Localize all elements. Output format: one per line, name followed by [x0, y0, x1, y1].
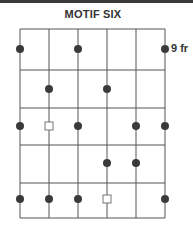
- finger-dot-icon: [161, 195, 169, 203]
- finger-dot-icon: [16, 122, 24, 130]
- finger-dot-icon: [74, 122, 82, 130]
- finger-dot-icon: [45, 85, 53, 93]
- finger-dot-icon: [16, 45, 24, 53]
- finger-dot-icon: [103, 159, 111, 167]
- finger-dot-icon: [74, 195, 82, 203]
- finger-dot-icon: [16, 195, 24, 203]
- root-square-icon: [103, 195, 111, 203]
- finger-dot-icon: [132, 122, 140, 130]
- fret-position-label: 9 fr: [171, 42, 188, 54]
- finger-dot-icon: [132, 159, 140, 167]
- finger-dot-icon: [74, 45, 82, 53]
- finger-dot-icon: [103, 85, 111, 93]
- fretboard-grid: [0, 0, 193, 239]
- root-square-icon: [45, 122, 53, 130]
- finger-dot-icon: [161, 122, 169, 130]
- finger-dot-icon: [45, 195, 53, 203]
- finger-dot-icon: [161, 45, 169, 53]
